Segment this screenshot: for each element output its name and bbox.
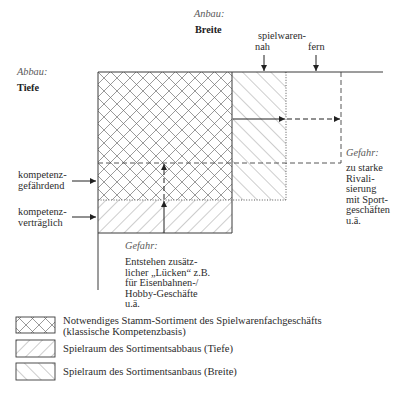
danger-breadth-line: u.ä.	[346, 216, 390, 227]
competence-endangering-line1: kompetenz-	[18, 169, 67, 180]
danger-breadth-line: zu starke	[346, 163, 390, 174]
legend-swatch-forward-hatch	[16, 340, 55, 357]
legend-item-line1: Spielraum des Sortimentsabbaus (Tiefe)	[63, 343, 233, 354]
competence-compatible-label: kompetenz- verträglich	[18, 206, 67, 228]
breadth-expansion-area	[232, 72, 286, 200]
danger-depth-text: Entstehen zusätz- licher „Lücken“ z.B. f…	[125, 257, 210, 310]
competence-endangering-label: kompetenz- gefährdend	[18, 169, 67, 191]
danger-breadth-title: Gefahr:	[346, 148, 379, 159]
legend-item-line1: Spielraum des Sortimentsanbaus (Breite)	[63, 366, 237, 377]
spielwaren-prefix-label: spielwaren-	[258, 31, 306, 42]
competence-endangering-line2: gefährdend	[18, 180, 67, 191]
legend-swatches	[16, 317, 55, 380]
legend-item-breadth-expansion: Spielraum des Sortimentsanbaus (Breite)	[63, 366, 237, 377]
core-assortment-area	[98, 72, 232, 200]
depth-reduction-area	[98, 200, 232, 233]
legend-swatch-backward-hatch	[16, 363, 55, 380]
legend-item-line1: Notwendiges Stamm-Sortiment des Spielwar…	[63, 315, 322, 326]
danger-depth-line: Entstehen zusätz-	[125, 257, 210, 268]
tiefe-label: Tiefe	[17, 83, 39, 94]
abbau-label: Abbau:	[17, 67, 47, 78]
near-label: nah	[255, 42, 270, 53]
anbau-label: Anbau:	[194, 9, 224, 20]
depth-marker-arrows	[72, 181, 96, 217]
competence-compatible-line2: verträglich	[18, 217, 67, 228]
danger-depth-line: u.ä.	[125, 299, 210, 310]
legend-swatch-crosshatch	[16, 317, 55, 333]
breadth-marker-arrows	[264, 55, 316, 71]
competence-compatible-line1: kompetenz-	[18, 206, 67, 217]
legend-item-depth-reduction: Spielraum des Sortimentsabbaus (Tiefe)	[63, 343, 233, 354]
danger-breadth-line: geschäften	[346, 205, 390, 216]
breite-label: Breite	[195, 25, 222, 36]
legend-item-core-assortment: Notwendiges Stamm-Sortiment des Spielwar…	[63, 315, 322, 337]
far-label: fern	[308, 42, 325, 53]
danger-depth-line: für Eisenbahnen-/	[125, 278, 210, 289]
danger-breadth-text: zu starke Rivali- sierung mit Sport- ges…	[346, 163, 390, 226]
danger-depth-title: Gefahr:	[125, 241, 158, 252]
danger-breadth-line: sierung	[346, 184, 390, 195]
legend-item-line2: (klassische Kompetenzbasis)	[63, 326, 322, 337]
